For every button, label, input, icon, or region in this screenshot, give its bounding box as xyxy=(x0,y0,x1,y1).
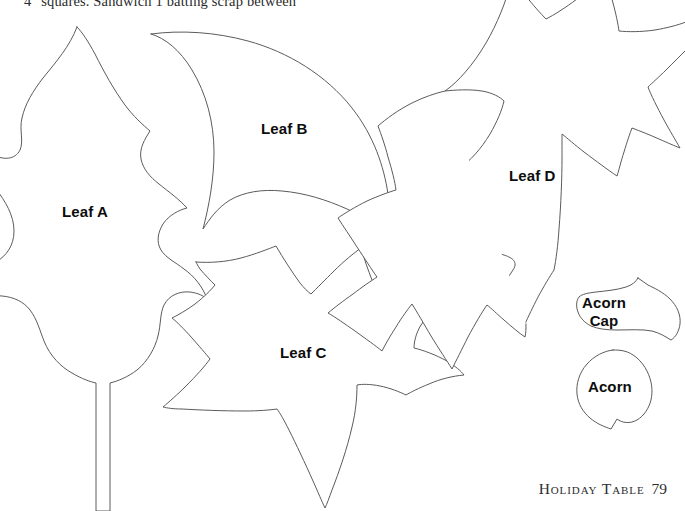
pattern-outlines xyxy=(0,0,685,511)
leaf-c-label: Leaf C xyxy=(280,344,326,362)
acorn-label: Acorn xyxy=(588,378,632,396)
leaf-a-outline xyxy=(0,27,207,511)
running-head: Holiday Table xyxy=(539,480,645,497)
leaf-b-label: Leaf B xyxy=(261,120,307,138)
leaf-a-label: Leaf A xyxy=(62,203,108,221)
page-number: 79 xyxy=(652,480,668,497)
page-footer: Holiday Table79 xyxy=(539,480,667,498)
acorn-cap-label-line-1: Acorn xyxy=(582,294,626,312)
acorn-cap-label-line-2: Cap xyxy=(582,312,626,330)
pattern-page: 4" squares. Sandwich 1 batting scrap bet… xyxy=(0,0,685,511)
acorn-cap-label: Acorn Cap xyxy=(582,294,626,331)
leaf-d-label: Leaf D xyxy=(509,167,555,185)
